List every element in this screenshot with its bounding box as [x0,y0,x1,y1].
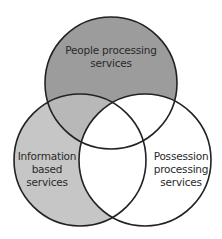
label-line: services [148,176,214,189]
venn-graphic [0,0,222,239]
label-line: services [14,176,80,189]
label-line: Information [14,150,80,163]
label-line: processing [148,163,214,176]
possession-processing-label: Possession processing services [148,150,214,189]
label-line: People processing [60,44,162,57]
venn-diagram: People processing services Information b… [0,0,222,239]
label-line: based [14,163,80,176]
people-processing-label: People processing services [60,44,162,70]
label-line: Possession [148,150,214,163]
label-line: services [60,57,162,70]
information-based-label: Information based services [14,150,80,189]
